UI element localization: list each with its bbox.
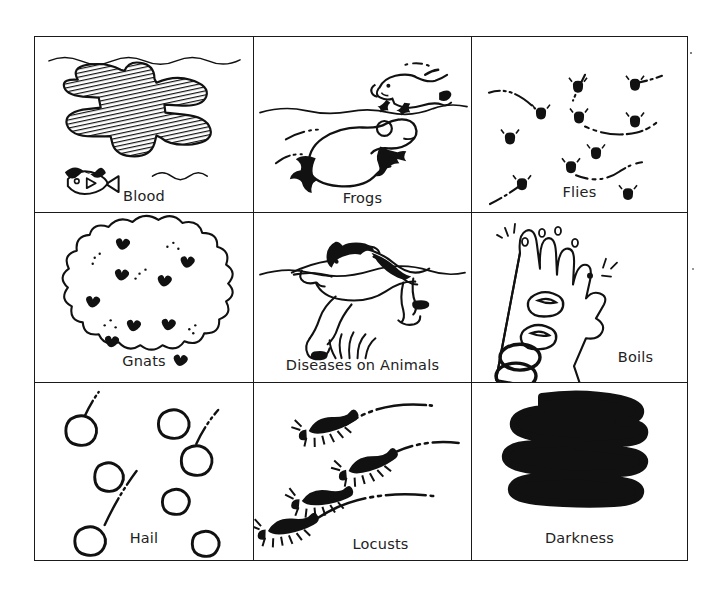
hailstones-icon [35, 383, 253, 560]
hail-trail-group [85, 392, 218, 525]
frog-upper [371, 63, 451, 115]
darkness-scribble-icon [472, 383, 687, 560]
cell-hail[interactable]: Hail [35, 383, 254, 560]
boils-on-arm-icon [472, 213, 687, 382]
cell-blood[interactable]: Blood [35, 37, 254, 213]
frog-lower [276, 119, 417, 193]
cell-locusts[interactable]: Locusts [254, 383, 472, 560]
cell-diseases-on-animals[interactable]: Diseases on Animals [254, 213, 472, 383]
locust-group [254, 405, 403, 551]
locust-swarm-icon [254, 383, 471, 560]
grass-tuft [330, 332, 376, 358]
scan-artifact-dot-side [692, 268, 694, 270]
cell-flies[interactable]: Flies [472, 37, 687, 213]
hailstone-group [66, 410, 219, 557]
cell-boils[interactable]: Boils [472, 213, 687, 383]
cell-frogs[interactable]: Frogs [254, 37, 472, 213]
scan-artifact-dot-top [690, 52, 692, 54]
plagues-grid: Blood [34, 36, 688, 561]
blood-hatched-water-icon [35, 37, 253, 212]
gnat-cloud-icon [35, 213, 253, 382]
falling-horse-icon [254, 213, 471, 382]
cell-gnats[interactable]: Gnats [35, 213, 254, 383]
illustration-page: Blood [0, 0, 721, 596]
leaping-frogs-icon [254, 37, 471, 212]
swarming-flies-icon [472, 37, 687, 212]
fly-group [501, 76, 644, 200]
cell-darkness[interactable]: Darkness [472, 383, 687, 560]
